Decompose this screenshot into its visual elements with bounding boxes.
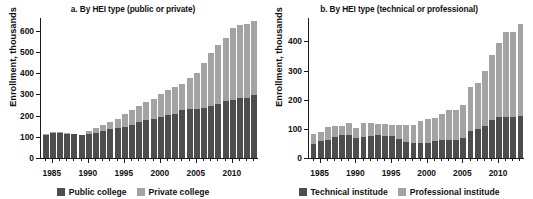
panel-a-y-tick (36, 73, 40, 74)
bar-segment-technical-institude (446, 140, 452, 158)
panel-a-x-tick (145, 159, 146, 161)
bar-segment-private-college (107, 122, 113, 129)
bar-segment-professional-institude (353, 128, 359, 139)
panel-a-y-tick-label: 400 (20, 68, 34, 78)
panel-b-x-tick (327, 159, 328, 161)
panel-b-x-tick (355, 159, 356, 163)
bar-segment-technical-institude (396, 139, 402, 158)
bar-segment-public-college (187, 109, 193, 158)
bar-segment-public-college (122, 127, 128, 158)
bar-segment-public-college (179, 110, 185, 158)
bar-segment-public-college (165, 115, 171, 158)
panel-a-y-tick (36, 116, 40, 117)
panel-b-x-tick (384, 159, 385, 161)
bar-1994 (115, 119, 121, 158)
panel-a-x-tick (52, 159, 53, 163)
bar-1992 (368, 123, 374, 158)
bar-segment-professional-institude (446, 110, 452, 139)
bar-segment-private-college (136, 106, 142, 122)
bar-segment-technical-institude (368, 136, 374, 158)
chart-panel-b: b. By HEI type (technical or professiona… (266, 0, 532, 199)
panel-a-x-tick (124, 159, 125, 163)
figure-root: a. By HEI type (public or private) Enrol… (0, 0, 533, 199)
panel-a-y-tick-label: 500 (20, 47, 34, 57)
panel-b-x-tick (420, 159, 421, 161)
panel-b-x-tick (370, 159, 371, 161)
bar-segment-public-college (158, 117, 164, 158)
bar-1987 (64, 133, 70, 158)
bar-segment-professional-institude (332, 126, 338, 137)
bar-1993 (375, 124, 381, 158)
panel-b-y-tick (304, 158, 308, 159)
bar-segment-public-college (57, 133, 63, 158)
bar-1996 (396, 125, 402, 158)
bar-segment-private-college (172, 87, 178, 114)
bar-1991 (361, 123, 367, 158)
bar-segment-private-college (215, 45, 221, 104)
bar-segment-professional-institude (475, 83, 481, 129)
legend-item-private-college[interactable]: Private college (137, 187, 210, 197)
bar-segment-technical-institude (489, 120, 495, 158)
panel-a-x-tick (189, 159, 190, 161)
bar-segment-public-college (244, 98, 250, 158)
bar-2004 (453, 110, 459, 158)
bar-segment-professional-institude (432, 118, 438, 140)
panel-b-y-axis-label: Enrollment, thousands (274, 0, 284, 117)
panel-b-x-tick (462, 159, 463, 163)
panel-b-x-tick (498, 159, 499, 163)
panel-b-x-tick-label: 2000 (417, 168, 436, 178)
bar-2003 (179, 84, 185, 158)
bar-segment-professional-institude (503, 32, 509, 117)
bar-segment-technical-institude (482, 126, 488, 158)
bar-segment-private-college (122, 114, 128, 126)
bar-1999 (151, 99, 157, 158)
bar-1999 (418, 121, 424, 158)
panel-b-y-tick (304, 100, 308, 101)
bar-segment-professional-institude (403, 125, 409, 141)
bar-segment-public-college (43, 135, 49, 158)
legend-item-technical-institude[interactable]: Technical institude (299, 187, 388, 197)
legend-item-professional-institude[interactable]: Professional institude (398, 187, 500, 197)
bar-segment-technical-institude (311, 144, 317, 158)
bar-1997 (403, 125, 409, 158)
panel-a-x-tick (59, 159, 60, 161)
bar-1985 (318, 132, 324, 158)
bar-segment-technical-institude (468, 131, 474, 158)
bar-2011 (503, 32, 509, 158)
bar-segment-private-college (187, 78, 193, 109)
panel-a-x-tick (45, 159, 46, 161)
bar-segment-professional-institude (375, 124, 381, 135)
bar-segment-public-college (143, 120, 149, 158)
panel-a-x-tick (239, 159, 240, 161)
panel-b-y-tick-label: 200 (288, 95, 302, 105)
panel-a-x-tick (225, 159, 226, 161)
panel-a-x-tick (232, 159, 233, 163)
bar-segment-technical-institude (318, 141, 324, 158)
bar-2008 (482, 71, 488, 158)
bar-segment-technical-institude (439, 140, 445, 158)
bar-segment-technical-institude (425, 143, 431, 158)
bar-segment-public-college (136, 122, 142, 158)
panel-b-x-tick (477, 159, 478, 161)
panel-b-bars (309, 18, 524, 158)
bar-segment-technical-institude (453, 140, 459, 158)
panel-b-x-tick-label: 1995 (382, 168, 401, 178)
panel-b-x-tick (441, 159, 442, 161)
bar-segment-technical-institude (503, 117, 509, 158)
bar-1998 (411, 125, 417, 158)
panel-a-y-tick (36, 94, 40, 95)
legend-item-public-college[interactable]: Public college (57, 187, 127, 197)
panel-a-x-tick (167, 159, 168, 161)
panel-a-x-tick (246, 159, 247, 161)
panel-a-x-tick (174, 159, 175, 161)
panel-a-y-tick-label: 200 (20, 111, 34, 121)
bar-1994 (382, 124, 388, 158)
bar-2012 (510, 32, 516, 158)
bar-segment-professional-institude (311, 134, 317, 144)
panel-a-plot-area: 0100200300400500600198519901995200020052… (40, 18, 258, 158)
bar-1995 (122, 114, 128, 158)
panel-a-x-tick (253, 159, 254, 161)
bar-1991 (93, 128, 99, 158)
bar-2009 (223, 38, 229, 158)
bar-1986 (57, 132, 63, 158)
